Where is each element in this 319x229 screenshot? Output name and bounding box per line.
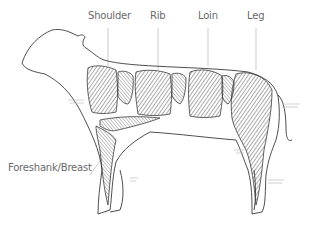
label-leg: Leg [247,10,264,21]
loin-bones [172,73,186,104]
label-foreshank-breast: Foreshank/Breast [8,162,92,173]
label-shoulder: Shoulder [88,10,131,21]
rib-bones [118,71,133,104]
lamb-illustration [0,0,319,229]
shoulder-cut [87,66,117,114]
rib-cut [135,70,171,115]
cut-regions [87,66,272,205]
breast-cut [100,117,160,131]
label-rib: Rib [150,10,165,21]
label-loin: Loin [198,10,218,21]
loin-cut [189,70,223,118]
